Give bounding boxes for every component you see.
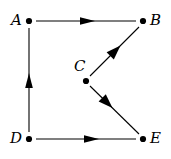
node-dot-a: [26, 18, 32, 24]
directed-graph-figure: A B C D E: [0, 0, 171, 159]
edge-c-e: [90, 86, 139, 134]
graph-canvas: [0, 0, 171, 159]
arrowhead-d-a: [25, 73, 33, 88]
node-label-a: A: [11, 13, 22, 28]
node-label-e: E: [150, 131, 161, 146]
node-dot-b: [140, 18, 146, 24]
arrowhead-a-b: [80, 17, 95, 25]
node-dot-c: [83, 78, 89, 84]
edge-arrowheads: [25, 17, 120, 143]
node-dot-d: [26, 136, 32, 142]
node-label-c: C: [74, 59, 85, 74]
node-label-d: D: [10, 131, 22, 146]
node-dot-e: [140, 136, 146, 142]
arrowhead-d-e: [84, 135, 99, 143]
node-label-b: B: [150, 13, 161, 28]
